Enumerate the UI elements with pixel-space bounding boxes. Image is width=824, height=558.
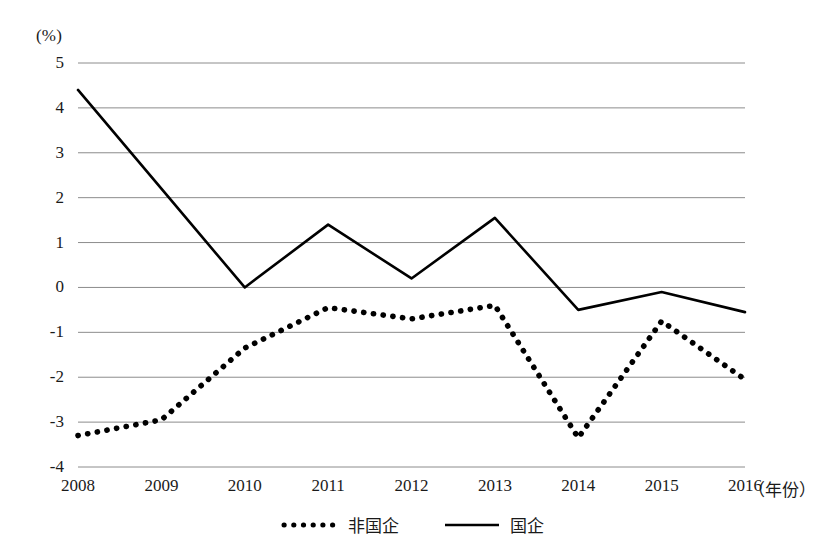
solid-line-swatch (443, 519, 501, 531)
line-chart: (%) 543210-1-2-3-4 200820092010201120122… (0, 0, 824, 558)
legend-item-soe: 国企 (443, 512, 544, 537)
data-series-layer (78, 90, 745, 438)
chart-legend: 非国企 国企 (0, 512, 824, 537)
series-line-非国企 (78, 305, 745, 437)
plot-area (0, 0, 824, 558)
series-line-国企 (78, 90, 745, 312)
dotted-line-swatch (281, 519, 339, 531)
legend-label-soe: 国企 (510, 512, 544, 537)
legend-label-non-soe: 非国企 (348, 512, 399, 537)
legend-item-non-soe: 非国企 (281, 512, 399, 537)
